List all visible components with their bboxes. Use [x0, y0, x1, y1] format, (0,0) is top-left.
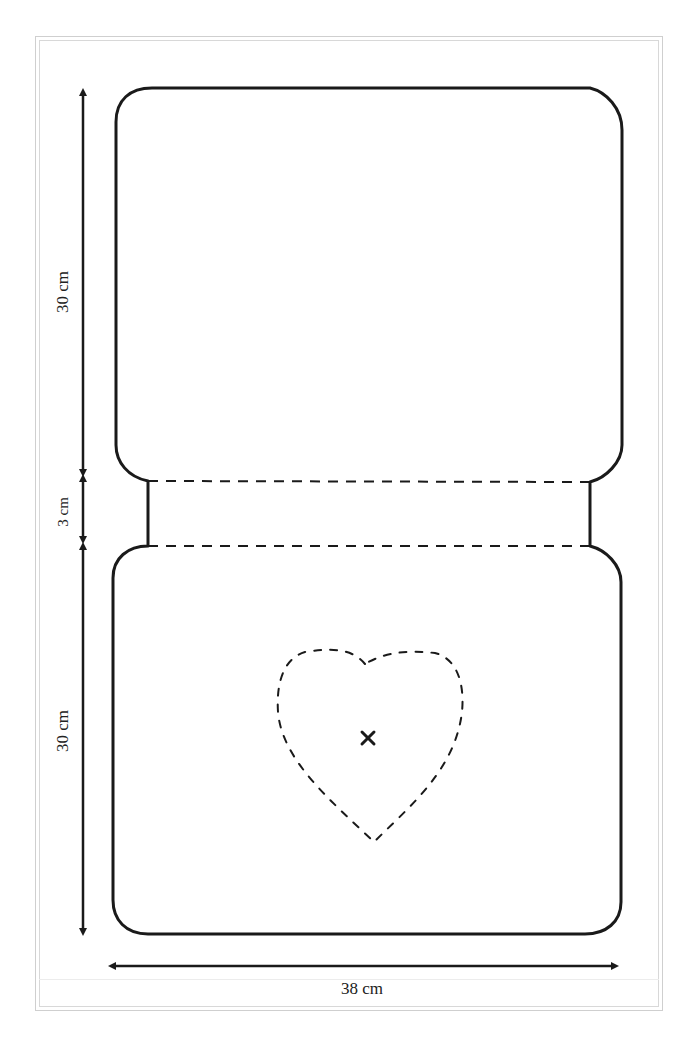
label-bottom-panel-height: 30 cm — [53, 710, 72, 752]
pattern-diagram: 30 cm 3 cm 30 cm 38 cm — [0, 0, 699, 1049]
center-mark-icon — [362, 732, 374, 744]
label-top-panel-height: 30 cm — [53, 271, 72, 313]
label-total-width: 38 cm — [341, 979, 383, 998]
fold-line-upper — [148, 481, 590, 482]
label-spine-height: 3 cm — [55, 497, 71, 527]
heart-stitch-outline — [278, 650, 463, 842]
pattern-outline — [113, 88, 622, 934]
